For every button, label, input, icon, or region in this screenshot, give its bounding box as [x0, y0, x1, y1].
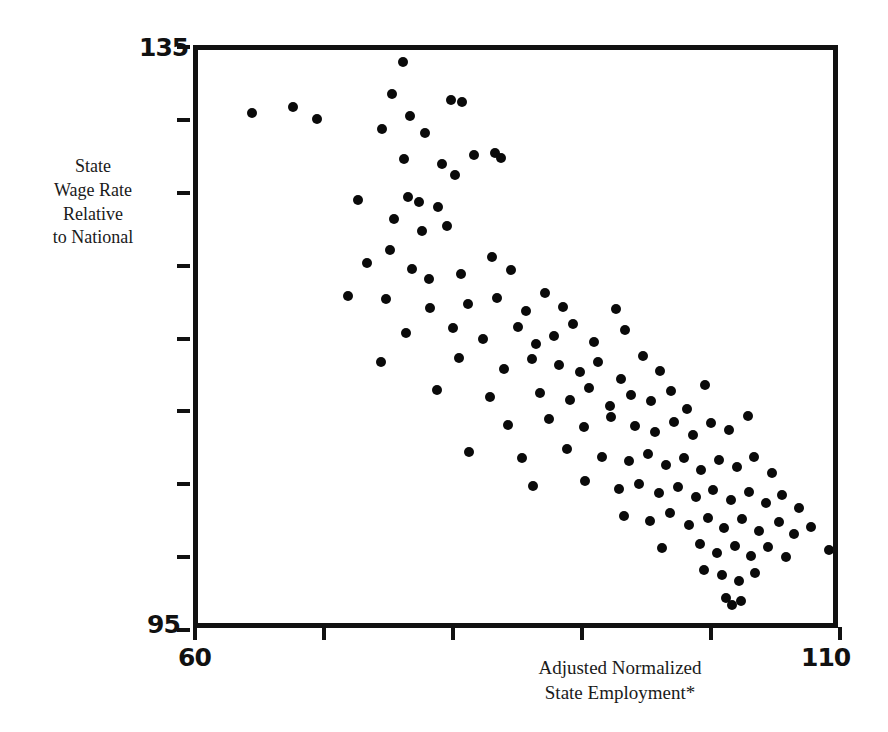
data-point: [492, 293, 502, 303]
data-point: [517, 453, 527, 463]
data-point: [463, 299, 473, 309]
data-point: [679, 453, 689, 463]
x-axis-title-line-1: Adjusted Normalized: [455, 655, 785, 680]
data-point: [417, 226, 427, 236]
data-point: [247, 108, 257, 118]
data-point: [777, 490, 787, 500]
data-point: [794, 503, 804, 513]
data-point: [824, 545, 833, 555]
data-point: [703, 513, 713, 523]
data-point: [630, 421, 640, 431]
data-point: [606, 412, 616, 422]
data-point: [619, 511, 629, 521]
x-axis-max-label: 110: [801, 645, 850, 670]
data-point: [549, 331, 559, 341]
data-point: [527, 354, 537, 364]
plot-data-area: [198, 50, 833, 623]
y-tick-mark: [177, 409, 190, 413]
x-axis-ticks: [193, 628, 838, 644]
data-point: [744, 487, 754, 497]
y-axis-title-line-1: State: [18, 155, 168, 179]
data-point: [605, 401, 615, 411]
data-point: [620, 325, 630, 335]
data-point: [691, 492, 701, 502]
data-point: [457, 97, 467, 107]
data-point: [719, 523, 729, 533]
data-point: [442, 221, 452, 231]
data-point: [650, 427, 660, 437]
data-point: [746, 551, 756, 561]
data-point: [767, 468, 777, 478]
data-point: [381, 294, 391, 304]
data-point: [774, 517, 784, 527]
data-point: [634, 479, 644, 489]
data-point: [448, 323, 458, 333]
data-point: [682, 404, 692, 414]
data-point: [353, 195, 363, 205]
data-point: [688, 430, 698, 440]
y-axis-title-line-2: Wage Rate: [18, 179, 168, 203]
x-tick-mark: [580, 627, 584, 640]
data-point: [708, 485, 718, 495]
data-point: [454, 353, 464, 363]
data-point: [450, 170, 460, 180]
y-tick-mark: [177, 191, 190, 195]
x-axis-min-label: 60: [178, 645, 211, 670]
data-point: [376, 357, 386, 367]
data-point: [673, 482, 683, 492]
x-tick-mark: [709, 627, 713, 640]
data-point: [496, 153, 506, 163]
data-point: [754, 526, 764, 536]
x-tick-mark: [451, 627, 455, 640]
data-point: [506, 265, 516, 275]
data-point: [706, 418, 716, 428]
data-point: [433, 202, 443, 212]
y-tick-mark: [177, 264, 190, 268]
data-point: [579, 422, 589, 432]
y-tick-mark: [177, 118, 190, 122]
x-axis-title-line-2: State Employment*: [455, 680, 785, 705]
data-point: [743, 411, 753, 421]
data-point: [614, 484, 624, 494]
data-point: [643, 449, 653, 459]
data-point: [407, 264, 417, 274]
data-point: [781, 552, 791, 562]
data-point: [669, 417, 679, 427]
data-point: [420, 128, 430, 138]
data-point: [624, 456, 634, 466]
data-point: [665, 508, 675, 518]
data-point: [565, 395, 575, 405]
data-point: [399, 154, 409, 164]
data-point: [531, 339, 541, 349]
data-point: [661, 460, 671, 470]
data-point: [343, 291, 353, 301]
data-point: [750, 568, 760, 578]
data-point: [389, 214, 399, 224]
data-point: [535, 388, 545, 398]
data-point: [568, 319, 578, 329]
y-tick-mark: [177, 45, 190, 49]
data-point: [414, 197, 424, 207]
data-point: [684, 520, 694, 530]
data-point: [405, 111, 415, 121]
data-point: [717, 570, 727, 580]
data-point: [714, 455, 724, 465]
data-point: [446, 95, 456, 105]
data-point: [385, 245, 395, 255]
data-point: [544, 414, 554, 424]
data-point: [699, 565, 709, 575]
data-point: [288, 102, 298, 112]
data-point: [575, 367, 585, 377]
data-point: [700, 380, 710, 390]
x-tick-mark: [193, 627, 197, 640]
data-point: [611, 304, 621, 314]
data-point: [554, 360, 564, 370]
y-axis-title-line-4: to National: [18, 226, 168, 250]
data-point: [712, 548, 722, 558]
data-point: [499, 364, 509, 374]
data-point: [626, 390, 636, 400]
data-point: [377, 124, 387, 134]
data-point: [580, 476, 590, 486]
data-point: [593, 357, 603, 367]
x-tick-mark: [838, 627, 842, 640]
